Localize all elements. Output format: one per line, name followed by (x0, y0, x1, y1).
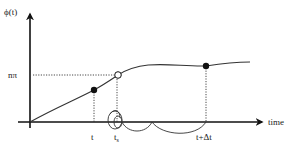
hop-arc-1 (122, 122, 152, 131)
tick-label-t-plus-dt: t+Δt (196, 132, 212, 142)
loop-arc-top (110, 111, 120, 118)
y-axis-label: ϕ(t) (4, 7, 17, 17)
tick-label-ts-sub: s (117, 137, 120, 143)
phase-diagram: ϕ(t) time nπ t ts t+Δt (0, 0, 300, 147)
tick-label-t: t (91, 132, 94, 142)
point-phase-at-t-plus-dt (203, 63, 209, 69)
tick-label-ts: ts (114, 132, 120, 143)
npi-level-label: nπ (8, 70, 18, 80)
point-phase-at-t (91, 87, 97, 93)
point-phase-crossing-npi (115, 72, 122, 79)
x-axis-label: time (268, 117, 284, 127)
phase-curve (30, 62, 250, 122)
